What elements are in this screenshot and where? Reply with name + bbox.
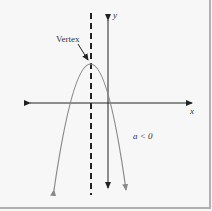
parabola-diagram: Vertex y x a < 0 [0, 0, 212, 211]
vertex-label: Vertex [56, 34, 80, 44]
vertex-pointer-arrow [78, 44, 88, 60]
x-axis-label: x [189, 106, 194, 116]
y-axis-label: y [112, 10, 117, 20]
condition-label: a < 0 [133, 131, 153, 141]
diagram-canvas: Vertex y x a < 0 [0, 0, 212, 211]
